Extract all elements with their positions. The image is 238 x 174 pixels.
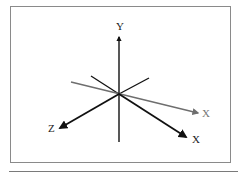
x-axis-rotated-label: X: [202, 107, 210, 119]
z-axis: [60, 94, 119, 128]
z-axis-label: Z: [48, 122, 55, 134]
x-axis-label: X: [192, 133, 200, 145]
back-segment-left: [91, 76, 119, 94]
y-axis-label: Y: [116, 20, 124, 32]
x-axis: [119, 94, 186, 137]
x-axis-rotated: [71, 82, 198, 113]
back-segment-right: [119, 78, 149, 94]
axes-diagram: Y X X Z: [0, 0, 238, 174]
